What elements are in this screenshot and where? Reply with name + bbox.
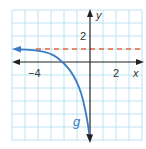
y-axis-label: y bbox=[95, 9, 103, 21]
curve-left-arrow-icon bbox=[12, 46, 21, 53]
x-axis bbox=[12, 59, 144, 65]
x-axis-left-arrow-icon bbox=[12, 59, 20, 65]
graph: −4 2 2 x y g bbox=[0, 0, 146, 149]
x-axis-right-arrow-icon bbox=[136, 59, 144, 65]
x-tick-label-2: 2 bbox=[113, 67, 119, 79]
curve-down-arrow-icon bbox=[86, 134, 93, 143]
curve-label-g: g bbox=[73, 114, 81, 129]
y-tick-label-2: 2 bbox=[80, 30, 86, 42]
x-axis-label: x bbox=[132, 67, 139, 79]
x-tick-label-neg4: −4 bbox=[28, 67, 41, 79]
